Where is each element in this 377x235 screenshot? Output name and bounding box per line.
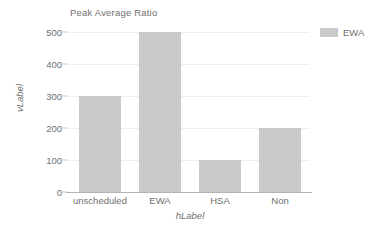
- bar-slot: [190, 32, 250, 192]
- x-axis-title: hLabel: [70, 210, 310, 221]
- x-tick-label: Non: [250, 195, 310, 206]
- x-axis: unscheduled EWA HSA Non: [70, 195, 310, 206]
- x-tick-label: EWA: [130, 195, 190, 206]
- chart-legend[interactable]: EWA: [320, 27, 364, 38]
- y-tick-mark: [62, 128, 68, 129]
- bar-slot: [130, 32, 190, 192]
- y-tick-label: 0: [2, 187, 62, 198]
- x-tick-label: HSA: [190, 195, 250, 206]
- y-tick-mark: [62, 160, 68, 161]
- y-tick-mark: [62, 96, 68, 97]
- bar-chart: Peak Average Ratio 500 400 300 200 100 0…: [0, 0, 377, 235]
- bar-hsa[interactable]: [199, 160, 241, 192]
- bar-series: [70, 32, 310, 192]
- y-tick-mark: [62, 32, 68, 33]
- y-tick-label: 100: [2, 155, 62, 166]
- y-tick-label: 300: [2, 91, 62, 102]
- x-axis-line: [66, 192, 312, 193]
- legend-swatch-ewa: [320, 28, 338, 37]
- bar-slot: [70, 32, 130, 192]
- x-tick-label: unscheduled: [70, 195, 130, 206]
- y-tick-mark: [62, 64, 68, 65]
- bar-ewa[interactable]: [139, 32, 181, 192]
- chart-title: Peak Average Ratio: [70, 7, 157, 18]
- y-tick-label: 400: [2, 59, 62, 70]
- bar-non[interactable]: [259, 128, 301, 192]
- bar-unscheduled[interactable]: [79, 96, 121, 192]
- legend-label-ewa: EWA: [343, 27, 364, 38]
- y-tick-label: 500: [2, 27, 62, 38]
- y-axis-title: vLabel: [14, 84, 25, 112]
- bar-slot: [250, 32, 310, 192]
- plot-area: [70, 32, 310, 192]
- y-tick-label: 200: [2, 123, 62, 134]
